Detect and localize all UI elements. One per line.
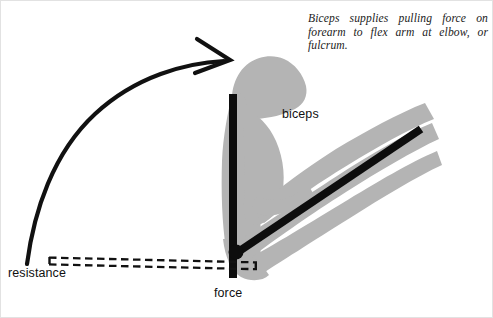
fulcrum-dot — [229, 245, 244, 260]
resistance-bar — [49, 257, 257, 269]
diagram-figure: Biceps supplies pulling force on forearm… — [0, 0, 493, 318]
resistance-bar-top-rail — [49, 258, 257, 263]
label-biceps: biceps — [282, 107, 319, 121]
arm-silhouette — [222, 56, 442, 280]
label-resistance: resistance — [8, 266, 66, 280]
label-force: force — [214, 286, 242, 300]
caption-text: Biceps supplies pulling force on forearm… — [308, 12, 488, 53]
motion-arrow-head — [195, 39, 230, 73]
resistance-bar-bottom-rail — [49, 264, 257, 269]
motion-arrow-curve — [27, 61, 224, 264]
motion-arrow — [27, 39, 230, 264]
